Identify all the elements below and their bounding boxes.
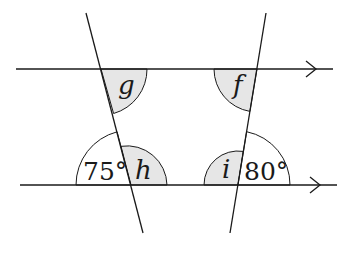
left-transversal — [86, 13, 143, 233]
angle-75-label: 75° — [83, 157, 127, 186]
angle-h-label: h — [135, 155, 152, 185]
angle-80-label: 80° — [244, 157, 288, 186]
diagram-canvas: g f 75° h i 80° — [0, 0, 355, 274]
angle-i-label: i — [222, 154, 230, 184]
angle-g-label: g — [118, 70, 135, 100]
right-transversal — [230, 13, 266, 233]
